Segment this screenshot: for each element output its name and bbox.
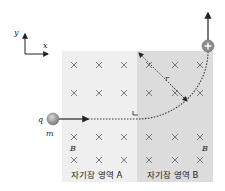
magnetic-field-diagram: y x B B r q m 자기장 영역 A 자기장 영역 B [0,0,225,191]
x-axis-label: x [43,41,48,50]
charge-start [47,113,59,125]
field-label-b: B [201,144,208,153]
mass-m-label: m [46,129,54,138]
region-b-label: 자기장 영역 B [147,170,198,180]
y-axis-label: y [13,28,19,37]
region-b [137,51,213,182]
field-label-a: B [69,144,76,153]
region-a-label: 자기장 영역 A [71,170,122,180]
charge-q-label: q [38,115,43,124]
